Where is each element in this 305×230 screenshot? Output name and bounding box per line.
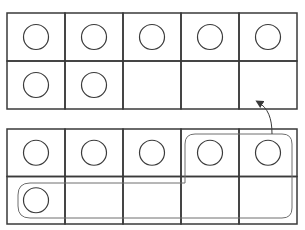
frame-cell — [239, 61, 297, 109]
frame-cell — [239, 13, 297, 61]
ten-frames-diagram — [0, 0, 305, 230]
frame-cell — [181, 61, 239, 109]
counter-circle-icon — [198, 25, 223, 50]
frame-cell — [7, 129, 65, 177]
counter-circle-icon — [82, 140, 107, 165]
frame-cell — [7, 177, 65, 225]
counter-circle-icon — [198, 140, 223, 165]
counter-circle-icon — [256, 25, 281, 50]
counter-circle-icon — [82, 25, 107, 50]
counter-circle-icon — [24, 188, 49, 213]
frame-cell — [65, 129, 123, 177]
counter-circle-icon — [256, 140, 281, 165]
frame-cell — [7, 61, 65, 109]
counter-circle-icon — [140, 25, 165, 50]
counter-circle-icon — [24, 25, 49, 50]
counter-circle-icon — [140, 140, 165, 165]
frame-cell — [65, 13, 123, 61]
top-ten-frame — [7, 13, 297, 109]
counter-circle-icon — [24, 73, 49, 98]
frame-cell — [7, 13, 65, 61]
bottom-ten-frame — [7, 129, 297, 224]
frame-cell — [123, 61, 181, 109]
counter-circle-icon — [82, 73, 107, 98]
frame-cell — [123, 129, 181, 177]
counter-circle-icon — [24, 140, 49, 165]
frame-cell — [123, 13, 181, 61]
frame-cell — [123, 177, 181, 225]
frame-cell — [181, 129, 239, 177]
frame-cell — [65, 177, 123, 225]
frame-cell — [181, 177, 239, 225]
frame-cell — [181, 13, 239, 61]
frame-cell — [65, 61, 123, 109]
